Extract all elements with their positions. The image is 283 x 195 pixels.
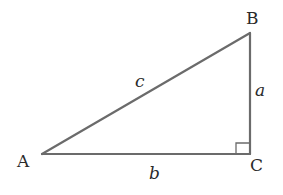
- diagram-canvas: B A C c a b: [0, 0, 283, 195]
- vertex-label-a: A: [16, 151, 30, 171]
- right-angle-marker: [236, 143, 250, 154]
- side-label-a: a: [255, 80, 265, 100]
- side-label-b: b: [149, 163, 160, 183]
- vertex-label-c: C: [250, 155, 263, 175]
- vertex-label-b: B: [246, 8, 259, 28]
- side-c-hypotenuse: [42, 33, 250, 154]
- side-label-c: c: [135, 71, 145, 91]
- right-triangle-diagram: B A C c a b: [0, 0, 283, 195]
